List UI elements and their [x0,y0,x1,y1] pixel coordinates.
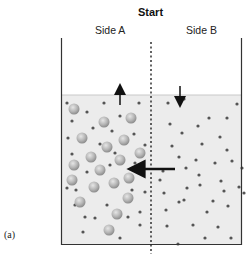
solute-ball [86,152,97,163]
solvent-dot [126,215,129,218]
solute-ball [112,209,123,220]
solvent-dot [235,102,238,105]
solvent-dot [177,155,180,158]
solvent-dot [102,101,105,104]
solvent-dot [170,144,173,147]
solvent-dot [137,101,140,104]
solute-ball [126,113,137,124]
solvent-dot [85,110,88,113]
solvent-dot [81,230,84,233]
solvent-dot [133,161,136,164]
solvent-dot [219,179,222,182]
solvent-dot [182,198,185,201]
solvent-dot [229,236,232,239]
solvent-dot [213,161,216,164]
solvent-dot [222,189,225,192]
solvent-dot [211,199,214,202]
solvent-dot [165,224,168,227]
solvent-dot [164,208,167,211]
solvent-dot [225,116,228,119]
solvent-dot [198,183,201,186]
solute-ball [104,225,115,236]
solvent-dot [197,173,200,176]
solvent-dot [105,203,108,206]
solute-ball [102,142,113,153]
solvent-dot [180,131,183,134]
solvent-dot [230,159,233,162]
solvent-dot [108,163,111,166]
solvent-dot [113,151,116,154]
solvent-dot [237,185,240,188]
solvent-dot [226,204,229,207]
solvent-dot [83,215,86,218]
solvent-dot [93,216,96,219]
solvent-dot [196,124,199,127]
solvent-dot [65,186,68,189]
solute-ball [75,197,86,208]
solute-ball [95,165,106,176]
solvent-dot [110,129,113,132]
solute-ball [89,182,100,193]
solvent-dot [91,126,94,129]
solvent-dot [70,119,73,122]
solute-ball [77,133,88,144]
solvent-dot [118,236,121,239]
solute-ball [69,160,80,171]
solute-ball [119,135,130,146]
solute-ball [69,104,80,115]
solvent-dot [194,158,197,161]
solvent-dot [205,210,208,213]
solvent-dot [66,136,69,139]
solvent-dot [98,142,101,145]
solvent-dot [158,178,161,181]
solvent-dot [132,132,135,135]
solvent-dot [138,210,141,213]
solvent-dot [207,116,210,119]
solvent-dot [168,122,171,125]
solvent-dot [166,101,169,104]
solvent-dot [200,142,203,145]
solvent-dot [118,114,121,117]
solvent-dot [74,188,77,191]
solvent-dot [143,190,146,193]
solvent-dot [65,101,68,104]
solute-ball [109,178,120,189]
solvent-dot [242,191,245,194]
solvent-dot [138,223,141,226]
solvent-dot [182,97,185,100]
solvent-dot [162,191,165,194]
solvent-dot [130,188,133,191]
solute-ball [124,173,135,184]
osmosis-diagram [0,0,250,264]
solvent-dot [143,143,146,146]
solvent-dot [191,223,194,226]
solvent-dot [216,225,219,228]
solvent-dot [177,200,180,203]
solvent-dot [184,166,187,169]
solvent-dot [218,135,221,138]
solute-ball [115,155,126,166]
solvent-dot [203,236,206,239]
solute-ball [135,148,146,159]
solute-ball [123,193,134,204]
solvent-dot [185,186,188,189]
solute-ball [99,117,110,128]
solvent-dot [70,152,73,155]
solute-ball [67,175,78,186]
solvent-dot [85,170,88,173]
solvent-dot [225,148,228,151]
